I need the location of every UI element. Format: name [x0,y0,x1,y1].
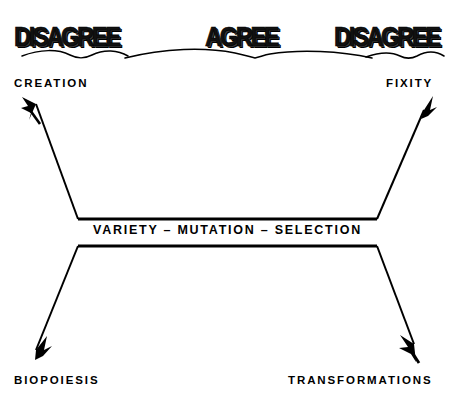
label-creation: CREATION [14,78,88,90]
bowtie-diagram [0,0,455,404]
center-band-label: VARIETY – MUTATION – SELECTION [0,224,455,237]
label-fixity: FIXITY [386,78,433,90]
branch-line-biopoiesis [35,246,78,360]
branch-line-creation [21,97,78,219]
arrowhead-transformations-icon [399,335,416,362]
diagram-page: DISAGREE AGREE DISAGREE [0,0,455,404]
arrowhead-fixity-icon [421,96,437,119]
label-biopoiesis: BIOPOIESIS [14,375,99,387]
label-transformations: TRANSFORMATIONS [288,375,433,387]
branch-line-transformations [377,246,419,363]
branch-line-fixity [377,96,437,219]
